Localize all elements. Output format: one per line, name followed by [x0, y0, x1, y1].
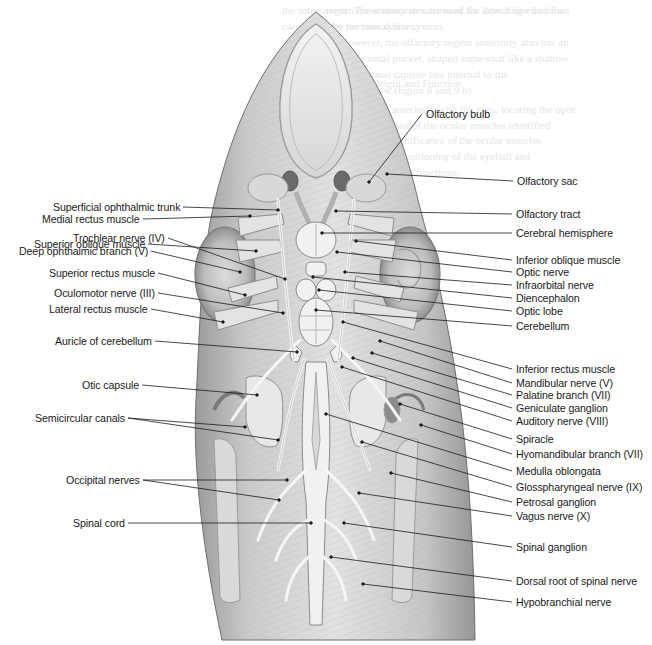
leader-endpoint-dot: [386, 173, 389, 176]
leader-endpoint-dot: [362, 583, 365, 586]
label-vagus-nerve-x: Vagus nerve (X): [516, 510, 590, 522]
label-inferior-rectus-muscle: Inferior rectus muscle: [516, 363, 615, 375]
label-olfactory-sac: Olfactory sac: [517, 175, 578, 187]
leader-endpoint-dot: [315, 309, 318, 312]
label-inferior-oblique-muscle: Inferior oblique muscle: [516, 254, 620, 266]
label-hypobranchial-nerve: Hypobranchial nerve: [516, 596, 611, 608]
leader-endpoint-dot: [420, 424, 423, 427]
leader-endpoint-dot: [244, 294, 247, 297]
label-hyomandibular-branch-vii: Hyomandibular branch (VII): [516, 448, 643, 460]
leader-endpoint-dot: [278, 499, 281, 502]
label-petrosal-ganglion: Petrosal ganglion: [516, 496, 596, 508]
leader-endpoint-dot: [325, 413, 328, 416]
label-palatine-branch-vii: Palatine branch (VII): [516, 389, 610, 401]
label-spinal-cord: Spinal cord: [73, 517, 125, 529]
label-auditory-nerve-viii: Auditory nerve (VIII): [516, 415, 608, 427]
label-mandibular-nerve-v: Mandibular nerve (V): [516, 377, 613, 389]
label-medial-rectus-muscle: Medial rectus muscle: [42, 213, 140, 225]
label-superior-rectus-muscle: Superior rectus muscle: [49, 267, 155, 279]
leader-endpoint-dot: [341, 366, 344, 369]
leader-endpoint-dot: [282, 312, 285, 315]
leader-endpoint-dot: [379, 340, 382, 343]
leader-endpoint-dot: [336, 251, 339, 254]
label-trochlear-nerve-iv: Trochlear nerve (IV): [73, 232, 165, 244]
label-deep-ophthalmic-branch-v: Deep ophthalmic branch (V): [19, 245, 148, 257]
leader-endpoint-dot: [343, 522, 346, 525]
leader-endpoint-dot: [286, 479, 289, 482]
leader-endpoint-dot: [277, 209, 280, 212]
leader-endpoint-dot: [255, 250, 258, 253]
leader-endpoint-dot: [277, 439, 280, 442]
leader-endpoint-dot: [390, 472, 393, 475]
label-geniculate-ganglion: Geniculate ganglion: [516, 402, 608, 414]
label-occipital-nerves: Occipital nerves: [66, 474, 140, 486]
leader-endpoint-dot: [330, 556, 333, 559]
label-cerebellum: Cerebellum: [516, 320, 569, 332]
leader-endpoint-dot: [368, 181, 371, 184]
label-glosspharyngeal-nerve-ix: Glosspharyngeal nerve (IX): [516, 481, 642, 493]
label-semicircular-canals: Semicircular canals: [35, 412, 125, 424]
label-auricle-of-cerebellum: Auricle of cerebellum: [55, 335, 152, 347]
leader-endpoint-dot: [296, 351, 299, 354]
leader-endpoint-dot: [318, 289, 321, 292]
label-medulla-oblongata: Medulla oblongata: [516, 465, 601, 477]
leader-endpoint-dot: [355, 240, 358, 243]
label-dorsal-root-of-spinal-nerve: Dorsal root of spinal nerve: [516, 575, 637, 587]
label-infraorbital-nerve: Infraorbital nerve: [516, 279, 594, 291]
label-oculomotor-nerve-iii: Oculomotor nerve (III): [54, 287, 155, 299]
leader-endpoint-dot: [256, 394, 259, 397]
leader-endpoint-dot: [239, 271, 242, 274]
leader-endpoint-dot: [399, 403, 402, 406]
label-otic-capsule: Otic capsule: [82, 379, 139, 391]
leader-endpoint-dot: [284, 278, 287, 281]
leader-endpoint-dot: [371, 352, 374, 355]
leader-endpoint-dot: [361, 441, 364, 444]
leader-endpoint-dot: [352, 357, 355, 360]
label-cerebral-hemisphere: Cerebral hemisphere: [516, 227, 613, 239]
label-olfactory-tract: Olfactory tract: [516, 208, 580, 220]
label-olfactory-bulb: Olfactory bulb: [426, 108, 490, 120]
leader-endpoint-dot: [244, 426, 247, 429]
leader-endpoint-dot: [321, 232, 324, 235]
label-superficial-ophthalmic-trunk: Superficial ophthalmic trunk: [53, 201, 180, 213]
label-optic-lobe: Optic lobe: [516, 305, 563, 317]
leader-endpoint-dot: [342, 321, 345, 324]
shark-head-dissection-figure: the integument. These structures are use…: [0, 0, 652, 645]
leader-endpoint-dot: [335, 210, 338, 213]
leader-endpoint-dot: [310, 522, 313, 525]
leader-endpoint-dot: [222, 321, 225, 324]
label-spinal-ganglion: Spinal ganglion: [516, 541, 587, 553]
label-optic-nerve: Optic nerve: [516, 266, 569, 278]
label-spiracle: Spiracle: [516, 433, 553, 445]
leader-endpoint-dot: [312, 276, 315, 279]
label-diencephalon: Diencephalon: [516, 292, 580, 304]
leader-endpoint-dot: [358, 492, 361, 495]
leader-endpoint-dot: [249, 215, 252, 218]
leader-endpoint-dot: [344, 271, 347, 274]
label-lateral-rectus-muscle: Lateral rectus muscle: [49, 303, 148, 315]
